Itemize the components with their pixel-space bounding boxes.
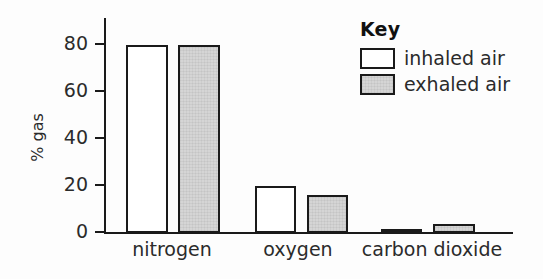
x-category-label-carbon-dioxide: carbon dioxide <box>357 240 507 259</box>
legend-title: Key <box>360 20 510 39</box>
x-category-label-oxygen: oxygen <box>243 240 353 259</box>
bar-nitrogen-exhaled <box>178 45 220 233</box>
legend-item-inhaled-air: inhaled air <box>360 48 510 69</box>
bar-oxygen-inhaled <box>255 186 296 233</box>
bar-chart: 0 20 40 60 80 % gas nit <box>0 0 543 279</box>
bar-carbon-dioxide-inhaled <box>381 229 422 233</box>
legend-label-exhaled-air: exhaled air <box>404 75 510 94</box>
x-category-label-nitrogen: nitrogen <box>112 240 232 259</box>
legend-swatch-inhaled-air-icon <box>360 48 395 69</box>
bar-oxygen-exhaled <box>307 195 348 233</box>
bar-nitrogen-inhaled <box>126 45 168 233</box>
bar-carbon-dioxide-exhaled <box>433 224 475 233</box>
legend-item-exhaled-air: exhaled air <box>360 74 510 95</box>
legend-swatch-exhaled-air-icon <box>360 74 395 95</box>
legend-label-inhaled-air: inhaled air <box>404 49 505 68</box>
legend: Key inhaled air exhaled air <box>360 20 510 100</box>
